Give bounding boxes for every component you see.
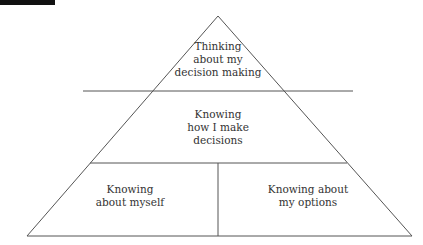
level-top-label: Thinking about my decision making: [158, 40, 278, 79]
level-middle-label: Knowing how I make decisions: [158, 108, 278, 147]
level-bottom-left-label: Knowing about myself: [70, 183, 190, 209]
level-bottom-right-label: Knowing about my options: [238, 183, 378, 209]
